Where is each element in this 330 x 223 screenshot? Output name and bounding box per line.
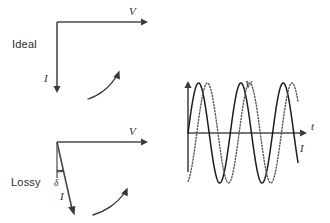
lossy-phasor-diagram: V I δ Lossy <box>11 125 148 216</box>
waveform-time-axis <box>188 129 307 136</box>
lossy-loss-angle-label: δ <box>54 178 59 188</box>
lossy-loss-angle-arc <box>57 171 64 172</box>
ideal-voltage-label: V <box>129 5 137 17</box>
ideal-current-label: I <box>43 72 49 84</box>
waveform-vertical-axis <box>184 81 191 172</box>
ideal-rotation-arc <box>88 75 117 99</box>
waveform-time-axis-label: t <box>311 120 315 132</box>
lossy-panel-label: Lossy <box>11 176 41 188</box>
lossy-rotation-arc <box>93 192 125 215</box>
waveform-time-axis-arrowhead <box>300 129 307 136</box>
figure-root: V I Ideal <box>0 0 330 223</box>
ideal-phasor-diagram: V I Ideal <box>12 5 148 99</box>
ideal-voltage-phasor <box>57 18 148 25</box>
ideal-rotation-arrow <box>88 71 120 100</box>
lossy-rotation-arrow <box>93 187 128 215</box>
lossy-current-phasor <box>57 142 75 216</box>
ideal-current-phasor <box>53 22 60 93</box>
lossy-voltage-phasor <box>57 138 148 145</box>
waveform-vertical-axis-arrowhead <box>184 81 191 88</box>
lossy-current-arrowhead <box>68 206 75 215</box>
lossy-voltage-label: V <box>129 125 137 137</box>
ideal-rotation-arrowhead <box>113 71 120 80</box>
ideal-current-arrowhead <box>53 86 60 93</box>
waveform-plot: V I t <box>184 78 315 183</box>
lossy-voltage-arrowhead <box>141 138 148 145</box>
ideal-panel-label: Ideal <box>12 38 37 50</box>
ideal-voltage-arrowhead <box>141 18 148 25</box>
figure-canvas: V I Ideal <box>0 0 330 223</box>
lossy-current-label: I <box>59 190 65 202</box>
waveform-current-label: I <box>299 142 305 154</box>
